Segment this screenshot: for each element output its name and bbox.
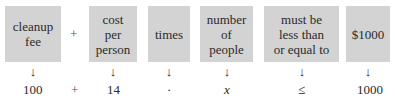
multiply-dot: · — [167, 82, 171, 98]
variable-x: x — [224, 82, 230, 98]
down-arrow-icon: ↓ — [23, 65, 43, 78]
down-arrow-icon: ↓ — [358, 65, 378, 78]
value-100: 100 — [23, 82, 43, 98]
down-arrow-icon: ↓ — [292, 65, 312, 78]
value-1000: 1000 — [357, 82, 383, 98]
box-cost-per-person: cost per person — [89, 6, 137, 62]
less-equal-symbol: ≤ — [298, 82, 305, 98]
box-1000-dollars: $1000 — [346, 6, 390, 62]
plus-operator: + — [71, 82, 78, 98]
box-times: times — [148, 6, 190, 62]
down-arrow-icon: ↓ — [217, 65, 237, 78]
down-arrow-icon: ↓ — [103, 65, 123, 78]
value-14: 14 — [107, 82, 120, 98]
down-arrow-icon: ↓ — [159, 65, 179, 78]
plus-operator: + — [70, 26, 77, 42]
box-less-than-or-equal: must be less than or equal to — [264, 6, 339, 62]
box-cleanup-fee: cleanup fee — [5, 6, 61, 62]
box-number-of-people: number of people — [200, 6, 253, 62]
